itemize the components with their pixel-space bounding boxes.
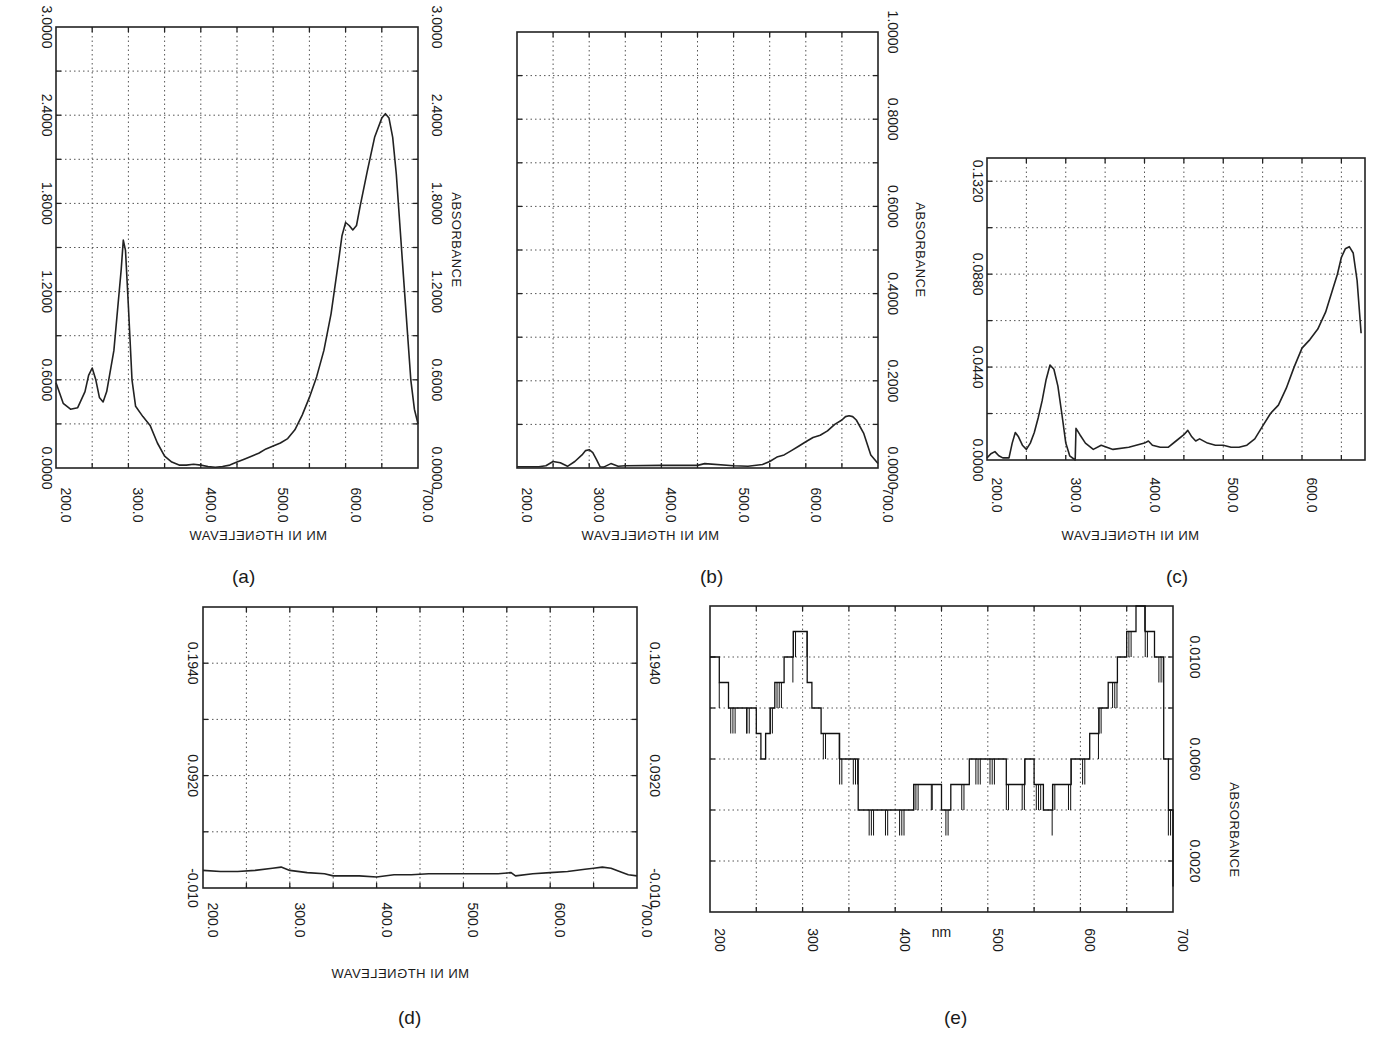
x-tick-label: 300.0	[292, 902, 308, 937]
x-tick-label: 600.0	[348, 487, 364, 522]
grid-lines	[710, 606, 1173, 912]
x-tick-label: 200.0	[58, 487, 74, 522]
y-tick-label-right: 0.8000	[885, 98, 901, 141]
y-tick-label-left: 0.0000	[970, 439, 986, 482]
x-tick-label: 700.0	[880, 487, 896, 522]
x-tick-label: 200.0	[989, 477, 1005, 512]
panel-label-c: (c)	[1166, 566, 1188, 588]
y-tick-label-right: 3.0000	[429, 6, 445, 49]
y-tick-label-right: 0.2000	[885, 359, 901, 402]
x-axis-title: MN NI HTGNELEVAW	[581, 528, 719, 543]
y-tick-label-left: 1.8000	[39, 182, 55, 225]
x-tick-label: 400.0	[203, 487, 219, 522]
x-tick-label: 400	[897, 928, 913, 952]
y-tick-label-left: 0.1320	[970, 160, 986, 203]
x-tick-label: 700	[1175, 928, 1191, 952]
y-tick-label-right: 0.0000	[885, 447, 901, 490]
y-tick-label-left: 0.6000	[39, 358, 55, 401]
y-tick-label-left: 0.1940	[185, 642, 201, 685]
y-tick-label-right: 0.0100	[1187, 636, 1203, 679]
noise-bars	[719, 606, 1170, 836]
x-tick-label: 600.0	[1304, 477, 1320, 512]
y-tick-label-right: 0.4000	[885, 272, 901, 315]
x-tick-label: 300.0	[591, 487, 607, 522]
tick-labels: 200.0300.0400.0500.0600.0700.00.00000.00…	[39, 6, 445, 523]
y-tick-label-right: 0.0920	[647, 754, 663, 797]
x-tick-label: 500.0	[1225, 477, 1241, 512]
grid-lines	[203, 607, 637, 888]
y-axis-title: ABSORBANCE	[913, 202, 928, 297]
y-tick-label-right: -0.010	[647, 868, 663, 908]
grid-lines	[987, 158, 1365, 460]
y-tick-label-right: 0.6000	[885, 185, 901, 228]
x-axis-title: MN NI HTGNELEVAW	[189, 528, 327, 543]
chart-d-svg: 200.0300.0400.0500.0600.0700.0-0.010-0.0…	[160, 580, 700, 1000]
x-tick-label: 500.0	[465, 902, 481, 937]
x-tick-label: 500.0	[275, 487, 291, 522]
x-tick-label: 300	[805, 928, 821, 952]
x-tick-label: 600.0	[552, 902, 568, 937]
x-tick-label: 200.0	[205, 902, 221, 937]
chart-panel-c: 200.0300.0400.0500.0600.00.00000.04400.0…	[940, 140, 1381, 560]
x-axis-title: MN NI HTGNELEVAW	[1061, 528, 1199, 543]
y-tick-label-left: 0.0920	[185, 754, 201, 797]
y-tick-label-left: 0.0000	[39, 447, 55, 490]
x-axis-title: MN NI HTGNELEVAW	[331, 966, 469, 981]
x-tick-label: 500.0	[736, 487, 752, 522]
x-tick-label: 600.0	[808, 487, 824, 522]
chart-e-svg: 2003004005006007000.00200.00600.0100nmAB…	[690, 590, 1250, 980]
spectrum-curve	[517, 416, 878, 467]
grid-lines	[517, 32, 878, 468]
x-tick-label: 300.0	[1068, 477, 1084, 512]
plot-frame	[987, 158, 1365, 460]
y-tick-label-right: 0.0020	[1187, 840, 1203, 883]
x-tick-label: 400.0	[1147, 477, 1163, 512]
y-tick-label-left: 0.0880	[970, 253, 986, 296]
chart-panel-a: 200.0300.0400.0500.0600.0700.00.00000.00…	[0, 0, 470, 560]
y-tick-label-right: 1.8000	[429, 182, 445, 225]
x-tick-label: 200	[712, 928, 728, 952]
x-axis-title: nm	[932, 924, 951, 940]
y-tick-label-right: 0.0000	[429, 447, 445, 490]
x-tick-label: 700.0	[420, 487, 436, 522]
x-tick-label: 200.0	[519, 487, 535, 522]
y-tick-label-right: 0.0060	[1187, 738, 1203, 781]
y-tick-label-left: 1.2000	[39, 270, 55, 313]
x-tick-label: 400.0	[379, 902, 395, 937]
y-tick-label-left: 3.0000	[39, 6, 55, 49]
y-tick-label-right: 1.0000	[885, 11, 901, 54]
chart-panel-b: 200.0300.0400.0500.0600.0700.00.00000.20…	[490, 0, 940, 560]
panel-label-b: (b)	[700, 566, 723, 588]
y-tick-label-right: 0.1940	[647, 642, 663, 685]
chart-b-svg: 200.0300.0400.0500.0600.0700.00.00000.20…	[490, 0, 940, 560]
panel-label-d: (d)	[398, 1007, 421, 1029]
panel-label-e: (e)	[944, 1007, 967, 1029]
y-tick-label-left: -0.010	[185, 868, 201, 908]
spectrum-curve	[987, 247, 1361, 460]
tick-labels: 200.0300.0400.0500.0600.0700.00.00000.20…	[519, 11, 901, 523]
x-tick-label: 500	[990, 928, 1006, 952]
x-tick-label: 300.0	[130, 487, 146, 522]
grid-lines	[56, 27, 418, 468]
y-tick-label-left: 0.0440	[970, 346, 986, 389]
y-tick-label-right: 0.6000	[429, 358, 445, 401]
y-tick-label-right: 1.2000	[429, 270, 445, 313]
tick-labels: 2003004005006007000.00200.00600.0100	[712, 636, 1203, 952]
x-tick-label: 400.0	[663, 487, 679, 522]
y-axis-title: ABSORBANCE	[449, 192, 464, 287]
chart-c-svg: 200.0300.0400.0500.0600.00.00000.04400.0…	[940, 140, 1381, 560]
chart-a-svg: 200.0300.0400.0500.0600.0700.00.00000.00…	[0, 0, 470, 560]
x-tick-label: 600	[1082, 928, 1098, 952]
chart-panel-d: 200.0300.0400.0500.0600.0700.0-0.010-0.0…	[160, 580, 700, 1000]
y-tick-label-right: 2.4000	[429, 94, 445, 137]
y-axis-title: ABSORBANCE	[1227, 782, 1242, 877]
y-tick-label-left: 2.4000	[39, 94, 55, 137]
chart-panel-e: 2003004005006007000.00200.00600.0100nmAB…	[690, 590, 1250, 980]
tick-labels: 200.0300.0400.0500.0600.0700.0-0.010-0.0…	[185, 642, 663, 938]
